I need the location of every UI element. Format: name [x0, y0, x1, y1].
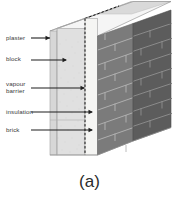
figure-caption: (a)	[0, 172, 179, 192]
wall-construction-figure: plaster block vapour barrier insulation …	[0, 0, 179, 205]
label-vapour-barrier: vapour barrier	[6, 80, 26, 95]
layer-insulation	[85, 19, 98, 156]
label-insulation: insulation	[6, 108, 33, 115]
label-plaster: plaster	[6, 34, 25, 41]
label-brick: brick	[6, 126, 20, 133]
layer-block	[57, 29, 85, 156]
layer-plaster	[50, 31, 57, 155]
label-block: block	[6, 55, 21, 62]
arrow-plaster	[31, 36, 50, 40]
